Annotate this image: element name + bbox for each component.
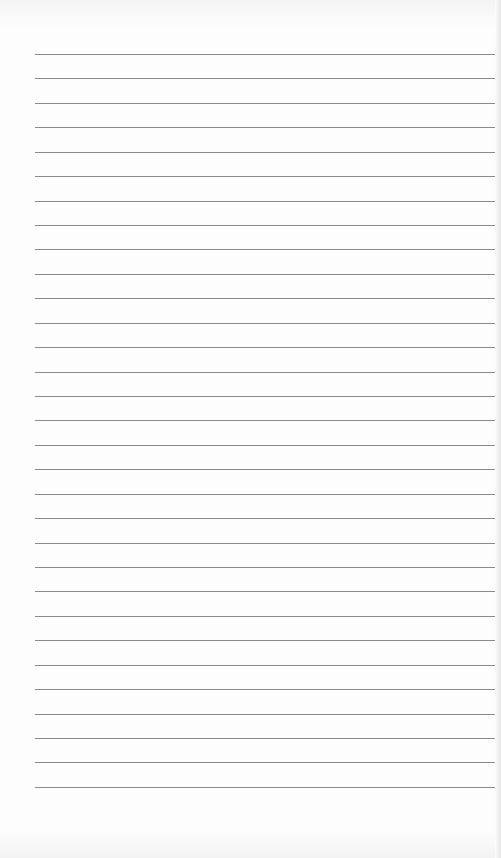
ruled-line (35, 347, 501, 348)
lined-paper (0, 0, 501, 858)
ruled-line (35, 298, 501, 299)
ruled-line (35, 591, 501, 592)
ruled-line (35, 567, 501, 568)
ruled-line (35, 714, 501, 715)
ruled-line (35, 787, 501, 788)
ruled-line (35, 396, 501, 397)
ruled-line (35, 78, 501, 79)
ruled-line (35, 152, 501, 153)
ruled-line (35, 249, 501, 250)
ruled-line (35, 445, 501, 446)
ruled-line (35, 420, 501, 421)
ruled-line (35, 665, 501, 666)
ruled-line (35, 518, 501, 519)
ruled-line (35, 738, 501, 739)
ruled-line (35, 372, 501, 373)
ruled-line (35, 762, 501, 763)
ruled-line (35, 469, 501, 470)
ruled-line (35, 54, 501, 55)
ruled-line (35, 225, 501, 226)
ruled-line (35, 274, 501, 275)
ruled-line (35, 201, 501, 202)
ruled-line (35, 494, 501, 495)
ruled-line (35, 103, 501, 104)
ruled-line (35, 616, 501, 617)
ruled-line (35, 689, 501, 690)
paper-right-edge (495, 0, 501, 858)
ruled-line (35, 543, 501, 544)
ruled-line (35, 640, 501, 641)
ruled-line (35, 127, 501, 128)
ruled-line (35, 323, 501, 324)
ruled-line (35, 176, 501, 177)
